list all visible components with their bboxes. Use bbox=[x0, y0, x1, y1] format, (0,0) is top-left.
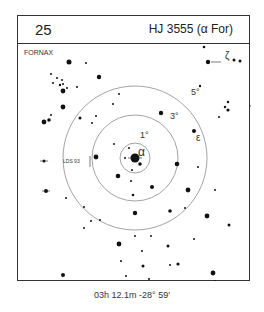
star bbox=[50, 114, 52, 116]
star bbox=[59, 84, 61, 86]
star bbox=[211, 271, 216, 276]
star bbox=[83, 206, 85, 208]
star bbox=[148, 278, 150, 280]
star bbox=[169, 264, 171, 266]
star bbox=[67, 60, 72, 65]
star bbox=[90, 220, 92, 222]
star-label: ζ bbox=[225, 50, 230, 62]
star bbox=[94, 155, 99, 160]
star bbox=[132, 194, 135, 197]
star bbox=[184, 207, 186, 209]
coordinates-label: 03h 12.1m -28° 59′ bbox=[0, 290, 264, 300]
star bbox=[141, 250, 143, 252]
star bbox=[66, 87, 68, 89]
star bbox=[124, 157, 126, 159]
star bbox=[175, 162, 180, 167]
star bbox=[61, 89, 66, 94]
circle-radius-label: 5° bbox=[191, 87, 200, 97]
star bbox=[125, 275, 127, 277]
star bbox=[113, 143, 115, 145]
star bbox=[91, 122, 93, 124]
star bbox=[112, 103, 114, 105]
star-chart-card: 25 HJ 3555 (α For) FORNAX 1°3°5° αεζLDS … bbox=[17, 15, 250, 281]
star bbox=[159, 111, 163, 115]
star bbox=[65, 197, 67, 199]
star-label: α bbox=[138, 145, 145, 159]
star bbox=[128, 147, 130, 149]
star bbox=[79, 117, 82, 120]
star bbox=[120, 260, 122, 262]
circle-radius-label: 1° bbox=[140, 130, 149, 140]
star-label: LDS 93 bbox=[63, 158, 80, 164]
star bbox=[226, 108, 229, 111]
star bbox=[228, 224, 231, 227]
star-label: ε bbox=[196, 132, 201, 143]
star bbox=[142, 265, 145, 268]
circle-radius-label: 3° bbox=[170, 111, 179, 121]
star bbox=[50, 73, 52, 75]
star bbox=[117, 242, 122, 247]
star bbox=[214, 280, 216, 281]
star bbox=[197, 166, 199, 168]
star bbox=[227, 101, 229, 103]
star bbox=[76, 86, 78, 88]
star bbox=[133, 211, 137, 215]
star bbox=[131, 169, 133, 171]
star bbox=[95, 115, 97, 117]
star bbox=[56, 77, 58, 79]
star-field-chart: FORNAX 1°3°5° αεζLDS 93 bbox=[18, 43, 251, 281]
star bbox=[199, 85, 201, 87]
star bbox=[224, 106, 226, 108]
star bbox=[150, 235, 152, 237]
star bbox=[233, 59, 236, 62]
card-number: 25 bbox=[35, 21, 52, 38]
star bbox=[42, 120, 47, 125]
star bbox=[205, 214, 210, 219]
star bbox=[150, 185, 154, 189]
star bbox=[218, 116, 220, 118]
star bbox=[130, 180, 132, 182]
constellation-label: FORNAX bbox=[24, 49, 54, 56]
star bbox=[85, 62, 87, 64]
star bbox=[61, 273, 65, 277]
card-title: HJ 3555 (α For) bbox=[149, 22, 233, 36]
star bbox=[62, 83, 64, 85]
star bbox=[214, 189, 216, 191]
star bbox=[61, 79, 63, 81]
star bbox=[193, 238, 195, 240]
star bbox=[134, 235, 136, 237]
star bbox=[168, 209, 172, 213]
star bbox=[239, 60, 242, 63]
star bbox=[97, 75, 101, 79]
star bbox=[186, 188, 191, 193]
double-star-ticks bbox=[40, 62, 221, 191]
star-labels: αεζLDS 93 bbox=[63, 50, 230, 164]
star bbox=[47, 118, 51, 122]
card-header: 25 HJ 3555 (α For) bbox=[18, 16, 249, 44]
star bbox=[61, 105, 66, 110]
star bbox=[138, 162, 142, 166]
star bbox=[167, 245, 170, 248]
star bbox=[99, 219, 101, 221]
star bbox=[251, 105, 252, 108]
star bbox=[206, 60, 210, 64]
star bbox=[118, 93, 120, 95]
star bbox=[52, 82, 54, 84]
star bbox=[83, 227, 85, 229]
star bbox=[203, 46, 206, 49]
star bbox=[176, 262, 179, 265]
star bbox=[116, 174, 121, 179]
